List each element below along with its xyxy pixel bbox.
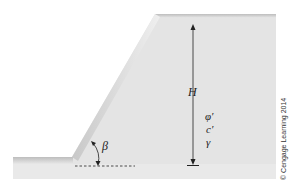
slope-diagram: H φ′ c′ γ β © Cengage Learning 2014: [0, 0, 296, 194]
label-slope-angle: β: [102, 140, 108, 152]
copyright-notice: © Cengage Learning 2014: [280, 98, 287, 180]
label-friction-angle: φ′: [205, 110, 214, 122]
slope-geometry: [0, 0, 296, 194]
toe-ground-surface: [13, 157, 73, 164]
crest-surface: [155, 14, 276, 18]
label-cohesion: c′: [206, 123, 213, 135]
label-height: H: [188, 86, 197, 98]
label-unit-weight: γ: [206, 136, 210, 148]
